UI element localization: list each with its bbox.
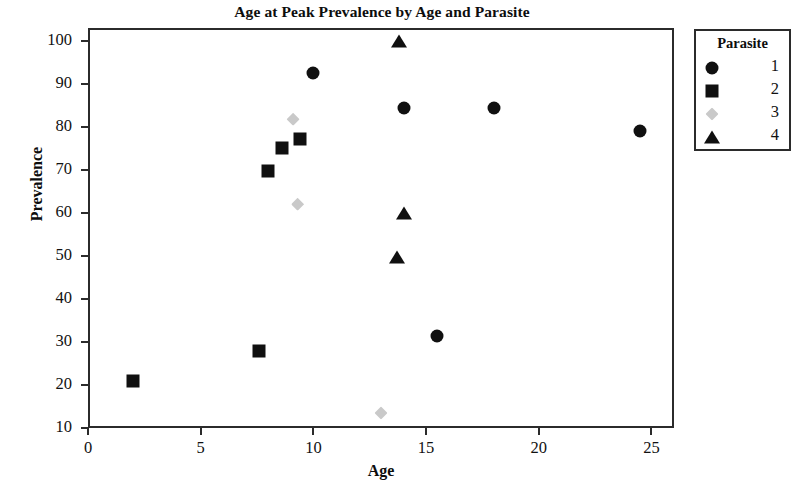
marker-diamond-icon	[291, 198, 304, 211]
marker-square-icon	[706, 85, 719, 98]
marker-square-icon	[253, 344, 266, 357]
legend-item-1: 1	[696, 57, 789, 79]
x-tick-mark	[538, 428, 540, 435]
page-title: Age at Peak Prevalence by Age and Parasi…	[86, 3, 678, 21]
marker-diamond-icon	[287, 113, 300, 126]
x-tick-mark	[200, 428, 202, 435]
data-point	[293, 132, 306, 145]
y-tick-mark	[81, 169, 88, 171]
y-tick-mark	[81, 341, 88, 343]
y-tick-mark	[81, 255, 88, 257]
data-point	[396, 206, 412, 219]
legend-key	[706, 108, 719, 121]
x-tick-label: 20	[519, 438, 559, 458]
x-tick-label: 5	[181, 438, 221, 458]
y-tick-mark	[81, 126, 88, 128]
legend-key	[706, 62, 719, 75]
y-tick-label: 90	[26, 73, 72, 93]
y-tick-label: 40	[26, 288, 72, 308]
marker-triangle-icon	[704, 131, 720, 144]
legend-item-4: 4	[696, 126, 789, 148]
marker-circle-icon	[706, 62, 719, 75]
x-tick-label: 10	[293, 438, 333, 458]
x-tick-label: 15	[406, 438, 446, 458]
y-tick-mark	[81, 384, 88, 386]
data-point	[397, 101, 410, 114]
marker-circle-icon	[634, 125, 647, 138]
legend-key	[704, 131, 720, 144]
marker-triangle-icon	[396, 206, 412, 219]
data-point	[253, 344, 266, 357]
y-tick-mark	[81, 212, 88, 214]
x-tick-mark	[312, 428, 314, 435]
marker-circle-icon	[431, 330, 444, 343]
x-axis-label: Age	[88, 462, 674, 480]
legend-label: 2	[771, 79, 779, 99]
data-point	[275, 142, 288, 155]
data-point	[307, 67, 320, 80]
data-point	[487, 101, 500, 114]
legend: Parasite 1234	[694, 29, 791, 151]
legend-label: 1	[771, 56, 779, 76]
x-tick-label: 0	[68, 438, 108, 458]
marker-diamond-icon	[706, 108, 719, 121]
y-tick-label: 10	[26, 417, 72, 437]
legend-title: Parasite	[696, 35, 789, 52]
marker-square-icon	[275, 142, 288, 155]
marker-square-icon	[293, 132, 306, 145]
marker-triangle-icon	[391, 34, 407, 47]
x-tick-mark	[425, 428, 427, 435]
marker-triangle-icon	[389, 250, 405, 263]
marker-circle-icon	[397, 101, 410, 114]
x-tick-label: 25	[631, 438, 671, 458]
y-tick-mark	[81, 83, 88, 85]
data-point	[287, 113, 300, 126]
legend-item-3: 3	[696, 103, 789, 125]
y-axis-label: Prevalence	[28, 114, 46, 254]
plot-area: 102030405060708090100 0510152025	[88, 28, 674, 428]
y-tick-mark	[81, 40, 88, 42]
legend-item-2: 2	[696, 80, 789, 102]
legend-label: 3	[771, 102, 779, 122]
data-point	[375, 406, 388, 419]
marker-square-icon	[127, 374, 140, 387]
marker-circle-icon	[307, 67, 320, 80]
data-point	[391, 34, 407, 47]
data-point	[431, 330, 444, 343]
y-tick-label: 30	[26, 331, 72, 351]
legend-label: 4	[771, 125, 779, 145]
data-point	[262, 164, 275, 177]
marker-circle-icon	[487, 101, 500, 114]
marker-diamond-icon	[375, 406, 388, 419]
y-tick-label: 100	[26, 30, 72, 50]
x-tick-mark	[650, 428, 652, 435]
data-point	[634, 125, 647, 138]
data-point	[127, 374, 140, 387]
data-point	[291, 198, 304, 211]
x-tick-mark	[87, 428, 89, 435]
marker-square-icon	[262, 164, 275, 177]
chart-page: Age at Peak Prevalence by Age and Parasi…	[0, 0, 801, 500]
legend-key	[706, 85, 719, 98]
data-point	[389, 250, 405, 263]
y-tick-label: 20	[26, 374, 72, 394]
y-tick-mark	[81, 298, 88, 300]
